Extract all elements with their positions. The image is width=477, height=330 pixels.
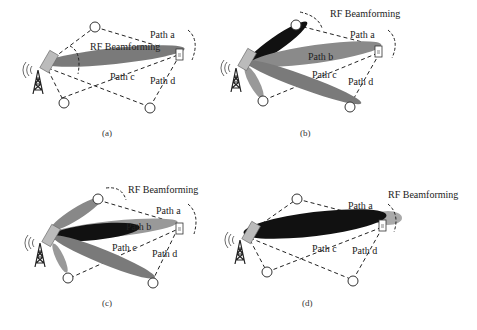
path-a-label: Path a [350,29,375,40]
path-b-label: Path b [126,221,151,232]
path-a-label: Path a [348,200,373,211]
beam-label-c: RF Beamforming [128,184,198,195]
beam-label-a: RF Beamforming [90,41,160,52]
beam-label-d: RF Beamforming [388,189,458,200]
beam-label-b: RF Beamforming [330,8,400,19]
path-a-label: Path a [156,205,181,216]
caption-b: (b) [300,128,311,138]
path-d-label: Path d [352,245,377,256]
panel-d: RF Beamforming Path a Path c Path d (d) [225,189,458,308]
caption-d: (d) [302,298,313,308]
caption-a: (a) [102,128,112,138]
path-c-label: Path c [112,242,137,253]
path-c-label: Path c [110,71,135,82]
panel-b: RF Beamforming Path a Path b Path c Path… [221,8,400,138]
path-d-label: Path d [150,75,175,86]
beamforming-diagram: RF Beamforming Path a Path c Path d (a) … [0,0,477,330]
path-d-label: Path d [152,248,177,259]
caption-c: (c) [102,298,112,308]
panel-c: RF Beamforming Path a Path b Path c Path… [25,184,198,308]
path-c-label: Path c [312,243,337,254]
path-c-label: Path c [312,69,337,80]
path-b-label: Path b [308,51,333,62]
panel-a: RF Beamforming Path a Path c Path d (a) [23,22,195,138]
path-a-label: Path a [150,29,175,40]
path-d-label: Path d [348,76,373,87]
